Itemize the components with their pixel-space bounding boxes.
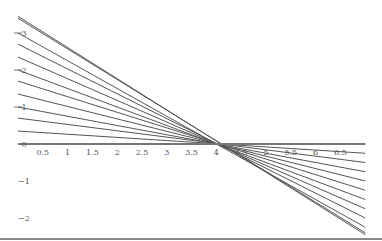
x-tick-label: 1.5 [86,148,99,157]
series-line [18,33,365,227]
series-line [18,18,365,233]
x-tick-label: 4 [214,148,219,157]
y-tick-label: 2 [21,66,26,75]
y-tick-label: −1 [18,177,30,186]
x-tick-label: 2 [115,148,120,157]
y-tick-label: 3 [21,29,26,38]
x-tick-label: 6 [313,148,318,157]
series-line [18,44,365,218]
y-tick-label: 1 [21,103,26,112]
y-tick-label: −2 [18,214,30,223]
x-tick-label: 3 [164,148,169,157]
chart-plot-area: 0.511.522.533.544.555.566.5 −2−10123 [0,0,382,241]
series-line [18,107,365,172]
x-tick-label: 3.5 [185,148,198,157]
x-tick-label: 2.5 [136,148,149,157]
series-line [18,57,365,209]
fan-lines [18,16,365,234]
bottom-border [0,238,382,240]
x-tick-label: 1 [65,148,70,157]
x-tick-label: 4.5 [235,148,248,157]
x-tick-label: 6.5 [334,148,347,157]
x-tick-label: 0.5 [36,148,49,157]
y-tick-label: 0 [21,140,26,149]
x-tick-label: 5 [263,148,268,157]
series-line [18,94,365,181]
x-tick-label: 5.5 [284,148,297,157]
series-line [18,81,365,190]
